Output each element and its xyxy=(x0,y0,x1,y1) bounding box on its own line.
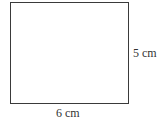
rectangle-shape xyxy=(10,2,129,104)
width-label: 6 cm xyxy=(56,106,80,121)
height-label: 5 cm xyxy=(133,46,157,61)
